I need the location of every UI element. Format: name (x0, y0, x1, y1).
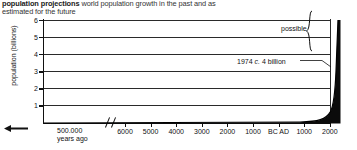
annotation-1974-pre: 1974 (237, 58, 255, 65)
curly-brace-icon (305, 10, 319, 52)
annotation-possible: possible (281, 25, 307, 32)
annotation-leader-line (300, 55, 332, 69)
annotation-1974-post: 4 billion (260, 58, 286, 65)
population-projections-figure: population projections world population … (0, 0, 357, 150)
annotation-1974: 1974 c. 4 billion (237, 58, 286, 65)
population-curve (0, 0, 357, 150)
